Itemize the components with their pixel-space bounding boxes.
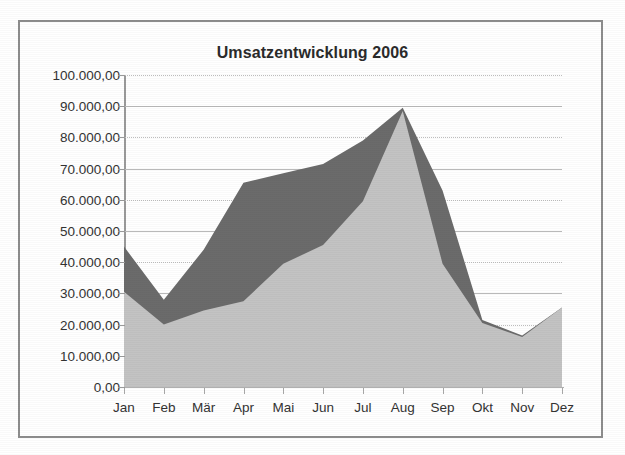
y-axis-tick-mark — [118, 75, 125, 76]
x-axis-tick-mark — [323, 388, 324, 394]
chart-frame: Umsatzentwicklung 2006 0,0010.000,0020.0… — [18, 20, 603, 438]
y-axis-tick-label: 20.000,00 — [24, 317, 120, 332]
y-axis-tick-mark — [118, 106, 125, 107]
chart-figure: Umsatzentwicklung 2006 0,0010.000,0020.0… — [0, 0, 625, 455]
y-axis-tick-label: 70.000,00 — [24, 161, 120, 176]
y-axis-tick-label: 90.000,00 — [24, 99, 120, 114]
y-axis-tick-mark — [118, 169, 125, 170]
x-axis-tick-mark — [562, 388, 563, 394]
y-axis-tick-label: 0,00 — [24, 380, 120, 395]
x-axis-tick-mark — [482, 388, 483, 394]
x-axis-tick-mark — [403, 388, 404, 394]
y-axis-tick-mark — [118, 137, 125, 138]
x-axis-tick-mark — [164, 388, 165, 394]
x-axis-tick-mark — [124, 388, 125, 394]
y-axis-tick-label: 60.000,00 — [24, 192, 120, 207]
x-axis-tick-mark — [283, 388, 284, 394]
y-axis-tick-label: 50.000,00 — [24, 224, 120, 239]
x-axis-tick-mark — [443, 388, 444, 394]
y-axis-tick-label: 40.000,00 — [24, 255, 120, 270]
x-axis-tick-mark — [204, 388, 205, 394]
x-axis-tick-mark — [363, 388, 364, 394]
x-axis-line — [124, 387, 564, 388]
y-axis-tick-mark — [118, 325, 125, 326]
y-axis-tick-mark — [118, 231, 125, 232]
y-axis-tick-label: 30.000,00 — [24, 286, 120, 301]
y-axis-tick-mark — [118, 293, 125, 294]
y-axis-tick-label: 80.000,00 — [24, 130, 120, 145]
x-axis-tick-mark — [522, 388, 523, 394]
y-axis-tick-mark — [118, 200, 125, 201]
y-axis-tick-label: 10.000,00 — [24, 348, 120, 363]
y-axis-labels: 0,0010.000,0020.000,0030.000,0040.000,00… — [20, 22, 120, 440]
y-axis-tick-mark — [118, 356, 125, 357]
y-axis-tick-mark — [118, 262, 125, 263]
plot-area — [124, 75, 562, 387]
x-axis-tick-label: Dez — [539, 400, 585, 415]
y-axis-tick-label: 100.000,00 — [24, 68, 120, 83]
area-series-layer — [124, 75, 562, 387]
x-axis-tick-mark — [244, 388, 245, 394]
